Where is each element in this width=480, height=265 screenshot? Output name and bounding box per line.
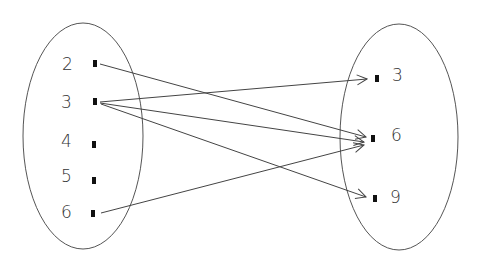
mapping-diagram: 2 3 4 5 6 3 6 9 [0,0,480,265]
domain-dot [91,210,95,217]
domain-dot [93,98,97,105]
domain-label: 5 [61,166,72,186]
domain-labels: 2 3 4 5 6 [61,54,73,222]
codomain-labels: 3 6 9 [390,65,403,207]
codomain-label: 9 [390,187,401,207]
arrow-6-to-6 [101,145,364,213]
arrow-3-to-6 [100,103,364,142]
codomain-dots [371,75,379,202]
domain-dots [91,60,97,217]
domain-dot [92,177,96,184]
codomain-label: 6 [391,125,402,145]
arrow-3-to-3 [100,79,367,102]
codomain-dot [371,135,375,142]
domain-label: 2 [62,54,73,74]
domain-dot [93,60,97,67]
domain-label: 6 [61,202,72,222]
codomain-label: 3 [392,65,403,85]
codomain-dot [375,75,379,82]
mapping-arrows [100,64,367,213]
domain-label: 3 [61,92,72,112]
domain-set-ellipse [23,23,143,249]
domain-dot [92,141,96,148]
arrow-3-to-9 [101,104,366,197]
codomain-dot [373,195,377,202]
domain-label: 4 [61,131,72,151]
